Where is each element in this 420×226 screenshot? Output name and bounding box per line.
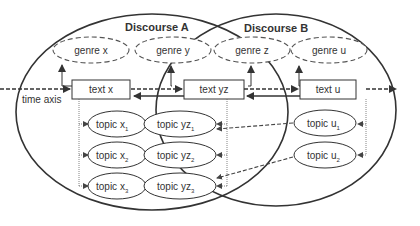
genre-z-label: genre z	[235, 45, 268, 56]
text-x-label: text x	[89, 84, 113, 95]
discourse-a-label: Discourse A	[125, 21, 189, 33]
genre-x-label: genre x	[74, 45, 107, 56]
topic-intertext-arrows	[217, 123, 293, 178]
genre-u-label: genre u	[312, 45, 346, 56]
genre-y-label: genre y	[156, 45, 189, 56]
text-yz-label: text yz	[200, 84, 229, 95]
discourse-diagram: Discourse A Discourse B genre x genre y …	[0, 0, 420, 226]
text-u-label: text u	[316, 84, 340, 95]
discourse-b-label: Discourse B	[244, 22, 308, 34]
time-axis-label: time axis	[22, 94, 61, 105]
